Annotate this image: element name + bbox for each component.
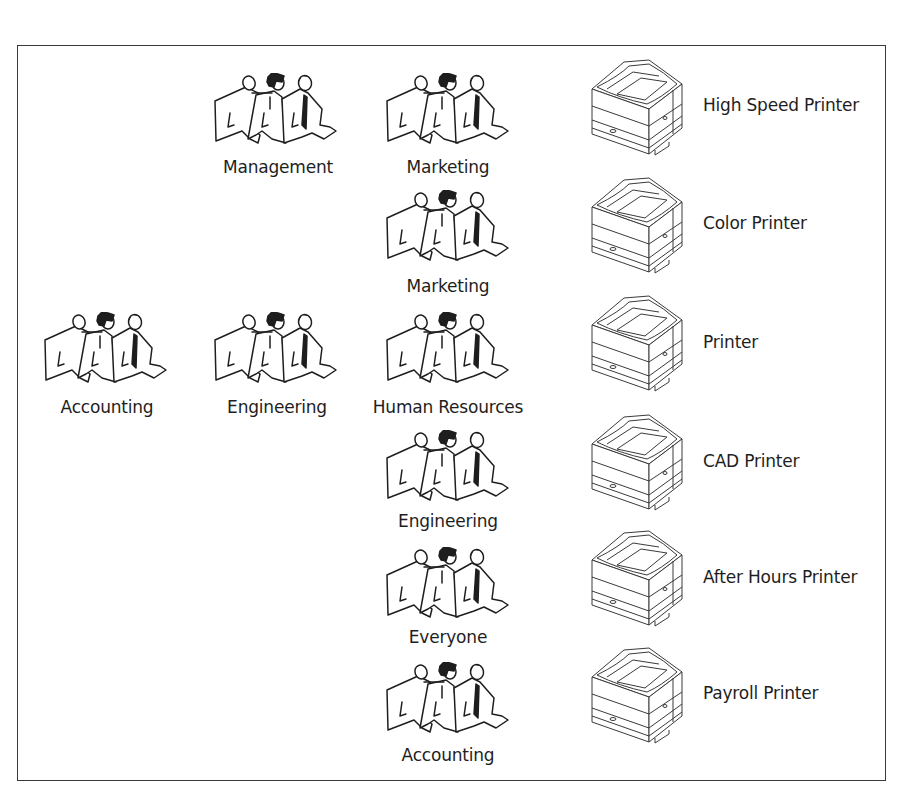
people-group-icon xyxy=(42,312,172,386)
people-group-icon xyxy=(384,73,514,147)
laser-printer-icon xyxy=(589,292,686,392)
group-label-accounting-2: Accounting xyxy=(348,745,548,765)
printer-label-cad: CAD Printer xyxy=(703,451,799,471)
printer-label-color: Color Printer xyxy=(703,213,807,233)
laser-printer-icon xyxy=(589,411,686,511)
people-group-icon xyxy=(384,662,514,736)
laser-printer-icon xyxy=(589,56,686,156)
people-group-icon xyxy=(384,430,514,504)
people-group-icon xyxy=(384,312,514,386)
printer-label-payroll: Payroll Printer xyxy=(703,683,818,703)
people-group-icon xyxy=(384,190,514,264)
people-group-icon xyxy=(212,73,342,147)
laser-printer-icon xyxy=(589,527,686,627)
laser-printer-icon xyxy=(589,174,686,274)
group-label-everyone: Everyone xyxy=(348,627,548,647)
group-label-human-resources: Human Resources xyxy=(348,397,548,417)
group-label-marketing: Marketing xyxy=(348,157,548,177)
printer-label-high-speed: High Speed Printer xyxy=(703,95,859,115)
group-label-marketing-2: Marketing xyxy=(348,276,548,296)
printer-label-after-hours: After Hours Printer xyxy=(703,567,857,587)
people-group-icon xyxy=(384,547,514,621)
people-group-icon xyxy=(212,312,342,386)
printer-label-printer: Printer xyxy=(703,332,758,352)
laser-printer-icon xyxy=(589,644,686,744)
group-label-engineering: Engineering xyxy=(177,397,377,417)
group-label-engineering-2: Engineering xyxy=(348,511,548,531)
